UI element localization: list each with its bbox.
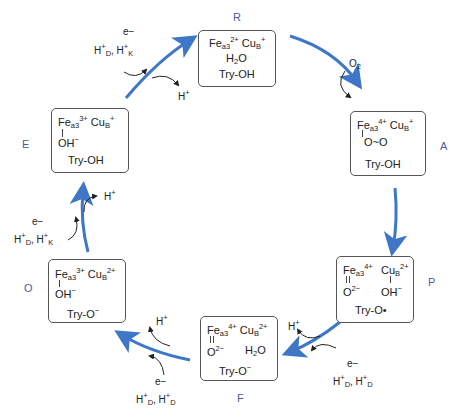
state-box-F: Fea34+ CuB2+ O2− H2O Try-O−	[200, 316, 278, 381]
state-box-E: Fea33+ CuB+ OH− Try-OH	[51, 108, 129, 173]
in-arrow-P-F	[312, 344, 336, 350]
annotation-P-F-proton-out: H+	[288, 318, 300, 332]
annotation-E-R-protons: H+D, H+K	[94, 42, 133, 58]
state-box-A: Fea34+ CuB+ O~O Try-OH	[350, 111, 426, 176]
annotation-O-E-proton-out: H+	[104, 188, 116, 202]
state-label-F: F	[237, 392, 244, 404]
annotation-P-F-protons: H+D, H+D	[333, 373, 373, 389]
annotation-O-E-electron: e−	[32, 216, 43, 227]
state-label-P: P	[428, 276, 435, 288]
state-label-E: E	[22, 138, 29, 150]
annotation-F-O-protons: H+D, H+D	[136, 391, 176, 407]
annotation-O-E-protons: H+D, H+K	[14, 231, 53, 247]
out-arrow-O-E	[84, 196, 96, 212]
in-arrow-O-E	[68, 218, 77, 240]
annotation-F-O-electron: e−	[155, 376, 166, 387]
out-arrow-P-F	[298, 330, 320, 338]
annotation-E-R-electron: e−	[123, 26, 134, 37]
state-box-O: Fea33+ CuB2+ OH− Try-O−	[48, 259, 126, 323]
annotation-R-A-oxygen: O2	[349, 58, 361, 71]
annotation-P-F-electron: e−	[347, 358, 358, 369]
annotation-F-O-proton-out: H+	[156, 313, 168, 327]
annotation-E-R-proton-out: H+	[178, 88, 190, 102]
state-label-R: R	[233, 11, 241, 23]
state-label-O: O	[24, 282, 33, 294]
out-arrow-E-R	[152, 76, 178, 85]
state-box-P: Fea34+ CuB2+ O2− OH− Try-O•	[336, 256, 414, 323]
in-arrow-E-R	[124, 70, 146, 76]
arrow-A-to-P	[393, 188, 396, 248]
in-arrow-R-A	[341, 71, 350, 97]
state-box-R: Fea32+ CuB+ H2O Try-OH	[198, 30, 276, 87]
arrow-R-to-A	[290, 36, 357, 82]
arrow-O-to-E	[82, 190, 88, 252]
in-arrow-F-O	[150, 356, 164, 375]
out-arrow-F-O	[150, 328, 170, 346]
state-label-A: A	[440, 140, 447, 152]
